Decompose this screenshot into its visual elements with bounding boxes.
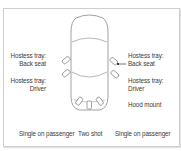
camera-hood-right-icon — [96, 97, 104, 106]
label-left-driver: Hostess tray: Driver — [6, 77, 46, 93]
label-right-driver: Hostess tray: Driver — [128, 77, 163, 93]
label-hood-mount: Hood mount — [128, 101, 161, 109]
car-body-outline — [71, 15, 108, 110]
label-right-back-seat: Hostess tray: Back seat — [128, 52, 163, 68]
camera-hood-center-icon — [87, 101, 92, 109]
label-bottom-left: Single on passenger — [19, 130, 75, 138]
camera-right-back-icon — [109, 57, 118, 66]
camera-left-driver-icon — [62, 69, 71, 78]
label-bottom-center: Two shot — [78, 130, 102, 138]
windshield-line — [72, 38, 107, 42]
camera-hood-left-icon — [75, 97, 83, 106]
pointer-dot — [117, 63, 119, 65]
label-line: Hostess tray: — [128, 77, 163, 85]
label-line: Back seat — [6, 60, 46, 68]
label-left-back-seat: Hostess tray: Back seat — [6, 52, 46, 68]
label-line: Driver — [6, 85, 46, 93]
camera-left-back-icon — [62, 56, 71, 65]
label-line: Hostess tray: — [6, 77, 46, 85]
label-line: Hostess tray: — [128, 52, 163, 60]
camera-right-driver-icon — [110, 70, 119, 79]
label-bottom-right: Single on passenger — [115, 130, 171, 138]
car-diagram — [0, 0, 181, 151]
label-line: Back seat — [128, 60, 163, 68]
rear-window-line — [72, 72, 107, 77]
label-line: Hostess tray: — [6, 52, 46, 60]
label-line: Driver — [128, 85, 163, 93]
